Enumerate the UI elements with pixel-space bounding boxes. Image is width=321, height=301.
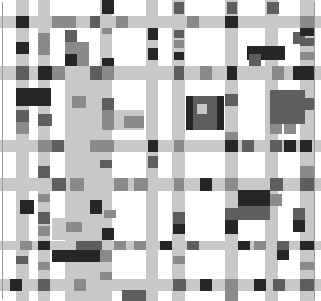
color-block — [102, 28, 112, 34]
color-block — [148, 156, 158, 168]
color-block — [38, 194, 50, 202]
color-block — [277, 241, 289, 250]
color-block — [227, 2, 237, 14]
color-block — [90, 16, 100, 28]
color-block — [300, 262, 315, 270]
color-block — [100, 160, 112, 168]
color-block — [238, 206, 270, 220]
color-block — [249, 54, 261, 66]
color-block — [38, 33, 50, 55]
color-block — [174, 66, 184, 80]
color-block — [200, 66, 212, 80]
color-block — [300, 28, 315, 36]
color-block — [300, 140, 312, 152]
color-block — [16, 110, 29, 122]
color-block — [300, 38, 315, 46]
color-block — [173, 256, 185, 264]
color-block — [90, 66, 102, 80]
color-block — [148, 2, 158, 14]
color-block — [174, 40, 184, 48]
color-block — [70, 178, 84, 191]
color-block — [52, 16, 76, 28]
color-block — [124, 116, 144, 128]
color-block — [134, 241, 146, 250]
color-block — [52, 66, 65, 80]
color-block — [65, 54, 77, 66]
color-block — [77, 54, 89, 66]
color-block — [270, 140, 282, 152]
color-block — [90, 140, 114, 152]
color-block — [300, 241, 315, 250]
color-block — [225, 132, 238, 140]
color-block — [300, 16, 315, 28]
color-block — [300, 279, 315, 291]
color-block — [200, 279, 212, 291]
color-block — [300, 66, 315, 80]
color-block — [174, 2, 184, 14]
color-block — [272, 66, 284, 80]
color-block — [227, 66, 237, 80]
color-block — [174, 279, 186, 291]
color-block — [267, 2, 279, 14]
color-block — [254, 241, 266, 250]
color-block — [174, 30, 184, 38]
color-block — [173, 224, 185, 234]
color-block — [16, 66, 29, 80]
color-block — [300, 166, 315, 178]
color-block — [148, 48, 158, 60]
color-block — [270, 178, 283, 191]
color-block — [65, 30, 77, 42]
color-block — [187, 16, 199, 28]
color-block — [293, 220, 305, 232]
color-block — [134, 178, 148, 191]
color-block — [38, 212, 50, 224]
color-block — [225, 279, 238, 291]
color-block — [200, 178, 212, 191]
color-block — [225, 291, 238, 301]
color-block — [38, 114, 52, 126]
color-block — [102, 98, 114, 110]
color-block — [225, 140, 238, 152]
color-block — [102, 66, 114, 80]
color-block — [284, 140, 296, 152]
color-block — [225, 178, 238, 191]
color-block — [242, 140, 254, 152]
color-block — [102, 110, 114, 130]
color-block — [197, 104, 207, 114]
color-block — [225, 94, 238, 106]
color-block — [284, 124, 296, 134]
color-block — [16, 42, 29, 54]
color-block — [38, 262, 50, 270]
color-block — [293, 208, 305, 220]
color-block — [277, 250, 289, 260]
color-block — [300, 98, 315, 110]
grid-painting — [0, 0, 321, 301]
color-block — [16, 88, 51, 106]
color-block — [38, 241, 50, 250]
color-block — [20, 200, 34, 214]
color-block — [16, 16, 29, 28]
color-block — [174, 178, 184, 191]
color-block — [102, 0, 114, 14]
color-block — [148, 140, 158, 152]
color-block — [65, 42, 89, 54]
color-block — [300, 52, 315, 60]
color-block — [174, 52, 184, 60]
color-block — [16, 122, 29, 134]
color-block — [52, 178, 66, 191]
color-block — [122, 290, 146, 301]
color-block — [20, 241, 32, 250]
color-block — [114, 178, 128, 191]
color-block — [38, 279, 50, 291]
color-block — [38, 166, 50, 178]
color-block — [38, 66, 52, 80]
color-block — [100, 250, 112, 262]
color-block — [254, 279, 266, 291]
color-block — [300, 178, 315, 191]
color-block — [102, 228, 114, 240]
color-block — [173, 212, 185, 224]
color-block — [273, 279, 285, 291]
color-block — [116, 16, 128, 28]
color-block — [160, 241, 172, 250]
color-block — [104, 210, 116, 218]
